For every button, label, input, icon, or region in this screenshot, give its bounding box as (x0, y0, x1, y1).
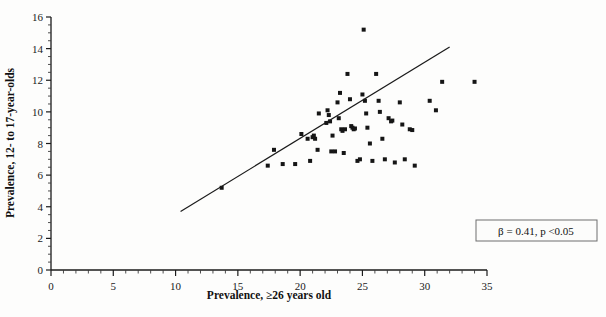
annotation-box: β = 0.41, p <0.05 (476, 220, 597, 241)
data-point (362, 28, 366, 32)
y-tick-label: 12 (32, 74, 43, 86)
data-point (306, 137, 310, 141)
data-point (358, 157, 362, 161)
data-point (473, 80, 477, 84)
data-point (338, 91, 342, 95)
data-point (299, 132, 303, 136)
data-point (317, 111, 321, 115)
y-tick-label: 10 (32, 106, 44, 118)
data-point (329, 149, 333, 153)
x-tick-label: 0 (48, 280, 54, 292)
data-point (333, 149, 337, 153)
annotation-box-text: β = 0.41, p <0.05 (498, 225, 574, 237)
y-tick-label: 0 (38, 264, 44, 276)
data-point (360, 92, 364, 96)
data-point (383, 157, 387, 161)
data-point (410, 128, 414, 132)
y-axis-ticks (46, 17, 51, 270)
data-point (326, 108, 330, 112)
y-axis-title: Prevalence, 12- to 17-year-olds (4, 67, 17, 218)
data-point (434, 108, 438, 112)
data-point (400, 123, 404, 127)
data-point (331, 134, 335, 138)
x-tick-label: 35 (482, 280, 494, 292)
data-point (342, 151, 346, 155)
data-point (390, 119, 394, 123)
data-point (348, 97, 352, 101)
data-point (398, 100, 402, 104)
data-point (377, 99, 381, 103)
data-point (343, 127, 347, 131)
data-point (316, 148, 320, 152)
y-axis-tick-labels: 0246810121416 (32, 11, 44, 276)
x-axis-title: Prevalence, ≥26 years old (207, 289, 332, 302)
data-point (364, 111, 368, 115)
x-tick-label: 5 (111, 280, 117, 292)
x-tick-label: 25 (357, 280, 369, 292)
data-point (413, 164, 417, 168)
data-point (403, 157, 407, 161)
figure-container: 0246810121416 05101520253035 Prevalence,… (0, 0, 606, 317)
data-point (336, 100, 340, 104)
data-point (378, 110, 382, 114)
data-point (266, 164, 270, 168)
data-point (365, 126, 369, 130)
y-tick-label: 16 (32, 11, 44, 23)
y-tick-label: 8 (38, 138, 44, 150)
y-tick-label: 4 (38, 201, 44, 213)
data-point (428, 99, 432, 103)
data-point (353, 126, 357, 130)
y-tick-label: 14 (32, 43, 44, 55)
data-point (370, 159, 374, 163)
data-point (368, 142, 372, 146)
y-tick-label: 6 (38, 169, 44, 181)
data-point (337, 116, 341, 120)
x-tick-label: 30 (419, 280, 431, 292)
data-point (345, 72, 349, 76)
data-point (281, 162, 285, 166)
y-tick-label: 2 (38, 232, 44, 244)
scatter-plot: 0246810121416 05101520253035 Prevalence,… (0, 0, 606, 317)
data-point (313, 137, 317, 141)
data-point (327, 113, 331, 117)
data-point (380, 137, 384, 141)
data-point (374, 72, 378, 76)
x-tick-label: 10 (170, 280, 182, 292)
data-point (272, 148, 276, 152)
x-axis-ticks (51, 270, 487, 276)
data-point (393, 160, 397, 164)
data-point (308, 159, 312, 163)
data-point (293, 162, 297, 166)
data-point (440, 80, 444, 84)
